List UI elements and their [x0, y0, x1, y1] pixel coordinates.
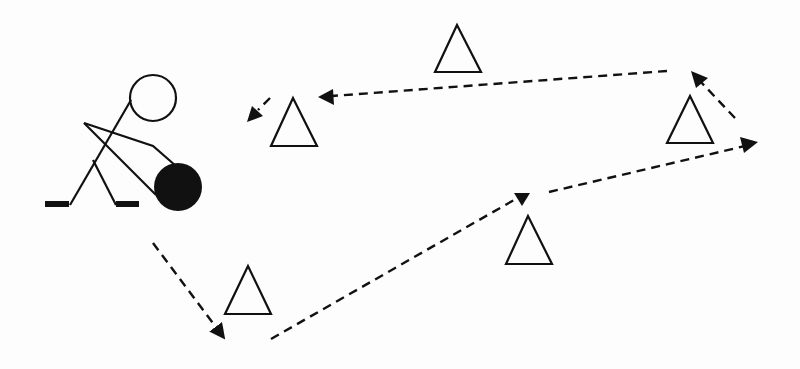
- arrowheads: [247, 71, 758, 206]
- arrowhead-icon: [740, 137, 758, 153]
- player-head: [130, 75, 176, 121]
- cone-icon: [225, 266, 271, 314]
- player-leg: [93, 160, 116, 205]
- route-line: [549, 146, 745, 192]
- drill-svg: [0, 0, 800, 369]
- cone-icon: [271, 98, 317, 146]
- cone-icon: [506, 216, 552, 264]
- left-skate: [45, 201, 69, 207]
- arrowhead-icon: [318, 89, 334, 105]
- arrowhead-icon: [514, 193, 530, 206]
- route-line: [271, 200, 514, 339]
- puck: [154, 163, 202, 211]
- player-torso: [70, 100, 131, 205]
- route: [153, 71, 745, 339]
- player-stick-upper: [84, 123, 176, 166]
- route-line: [258, 98, 270, 110]
- arrowhead-icon: [691, 71, 708, 88]
- cone-icon: [667, 96, 713, 143]
- route-line: [700, 81, 735, 118]
- route-arrow: [153, 243, 224, 338]
- player-stick-lower: [84, 123, 156, 195]
- route-line: [332, 71, 667, 96]
- drill-diagram: [0, 0, 800, 369]
- right-skate: [116, 201, 139, 207]
- cone-icon: [435, 25, 481, 72]
- arrowhead-icon: [247, 106, 263, 122]
